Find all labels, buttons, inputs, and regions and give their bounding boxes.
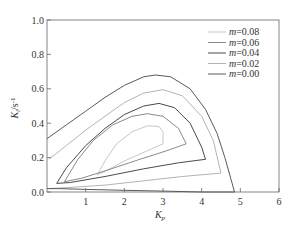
stability-region-chart: 123456 0.00.20.40.60.81.0 Kp Ki/s-1 m=0.…	[0, 0, 293, 231]
y-axis-title-sup: -1	[9, 97, 17, 103]
x-tick-label: 3	[161, 196, 166, 207]
series-line-1	[64, 114, 186, 182]
series-line-3	[49, 90, 221, 189]
x-tick-label: 4	[199, 196, 204, 207]
x-tick-label: 5	[238, 196, 243, 207]
y-tick-label: 0.8	[32, 49, 45, 60]
x-axis-title: Kp	[154, 209, 166, 222]
y-axis-ticks: 0.00.20.40.60.81.0	[32, 15, 52, 198]
legend-label: m=0.08	[229, 26, 259, 37]
x-tick-label: 2	[122, 196, 127, 207]
x-axis-ticks: 123456	[83, 188, 281, 207]
y-axis-title: Ki/s-1	[9, 97, 22, 120]
y-tick-label: 0.0	[32, 187, 45, 198]
x-tick-label: 6	[277, 196, 282, 207]
y-tick-label: 0.2	[32, 152, 45, 163]
x-tick-label: 1	[83, 196, 88, 207]
legend-label: m=0.00	[229, 68, 259, 79]
y-tick-label: 1.0	[32, 15, 45, 26]
legend-label: m=0.02	[229, 58, 259, 69]
y-tick-label: 0.6	[32, 83, 45, 94]
series-group	[47, 75, 235, 192]
legend-label: m=0.04	[229, 47, 259, 58]
x-axis-title-sub: p	[161, 214, 166, 222]
legend-label: m=0.06	[229, 37, 259, 48]
y-tick-label: 0.4	[32, 118, 45, 129]
legend: m=0.08m=0.06m=0.04m=0.02m=0.00	[208, 26, 259, 79]
